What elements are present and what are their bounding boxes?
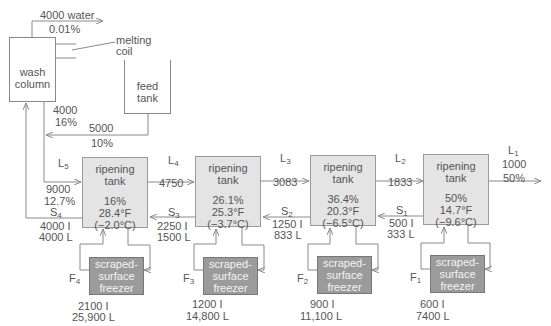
wash-column: wash column (9, 37, 56, 102)
tank-temp-f: 25.3°F (212, 206, 245, 218)
stream-S2-liquid: 833 L (274, 229, 302, 241)
tank-concentration: 26.1% (212, 194, 243, 206)
scraped-surface-freezer-2: scraped- surface freezer (317, 256, 372, 294)
freezer-label: scraped- (436, 256, 479, 268)
tank-concentration: 36.4% (327, 193, 358, 205)
stream-L1-conc: 50% (503, 172, 525, 184)
feed-tank-label-2: tank (137, 92, 158, 104)
wash-column-label-1: wash (20, 66, 46, 78)
tank-temp-f: 28.4°F (99, 207, 132, 219)
freezer-F2-liquid: 11,100 L (300, 310, 342, 322)
tank-temp-f: 14.7°F (440, 204, 473, 216)
freezer-F2-ice: 900 I (310, 298, 334, 310)
tank-name: tank (105, 175, 126, 187)
scraped-surface-freezer-4: scraped- surface freezer (89, 257, 144, 295)
wash-outflow: 4000 (53, 104, 77, 116)
stream-S1-liquid: 333 L (387, 228, 415, 240)
wash-outflow-conc: 16% (55, 116, 77, 128)
freezer-F2-label: F2 (297, 272, 308, 288)
stream-L3-value: 3083 (273, 176, 297, 188)
freezer-F4-label: F4 (69, 272, 80, 288)
ripening-tank-2: ripening tank 26.1% 25.3°F (−3.7°C) (195, 156, 261, 227)
freezer-label: scraped- (95, 258, 138, 270)
tank-temp-c: (−9.6°C) (435, 216, 476, 228)
freezer-F1-liquid: 7400 L (416, 310, 450, 322)
freezer-label: surface (98, 270, 134, 282)
feed-tank-label-1: feed (137, 80, 158, 92)
tank-name: tank (333, 173, 354, 185)
feed-flow: 5000 (89, 122, 113, 134)
freezer-label: scraped- (209, 258, 252, 270)
freezer-label: freezer (440, 280, 474, 292)
freezer-label: surface (326, 269, 362, 281)
freezer-label: freezer (213, 282, 247, 294)
stream-L4-label: L4 (168, 154, 179, 170)
tank-name: ripening (208, 162, 247, 174)
stream-L5-value: 9000 (46, 183, 70, 195)
melting-coil-label-2: coil (116, 45, 133, 57)
freezer-F1-label: F1 (410, 271, 421, 287)
stream-L2-value: 1833 (388, 176, 412, 188)
stream-L2-label: L2 (395, 152, 406, 168)
freezer-label: freezer (327, 281, 361, 293)
tank-name: ripening (323, 161, 362, 173)
wash-column-label-2: column (15, 78, 50, 90)
water-out-conc: 0.01% (49, 23, 80, 35)
ripening-tank-1: ripening tank 16% 28.4°F (−2.0°C) (82, 157, 148, 228)
stream-L3-label: L3 (280, 152, 291, 168)
freezer-label: scraped- (323, 257, 366, 269)
stream-S3-liquid: 1500 L (157, 231, 191, 243)
stream-L1-value: 1000 (502, 158, 526, 170)
stream-S4-liquid: 4000 L (39, 231, 73, 243)
stream-L5-label: L5 (58, 157, 69, 173)
feed-tank: feed tank (124, 60, 171, 114)
tank-concentration: 50% (445, 192, 467, 204)
scraped-surface-freezer-1: scraped- surface freezer (430, 255, 485, 293)
ripening-tank-3: ripening tank 36.4% 20.3°F (−6.5°C) (310, 155, 376, 226)
stream-L4-value: 4750 (159, 177, 183, 189)
ripening-tank-4: ripening tank 50% 14.7°F (−9.6°C) (423, 154, 489, 225)
freezer-F1-ice: 600 I (420, 298, 444, 310)
feed-conc: 10% (91, 137, 113, 149)
tank-name: tank (218, 174, 239, 186)
tank-temp-c: (−3.7°C) (207, 218, 248, 230)
tank-name: tank (446, 172, 467, 184)
freezer-F4-liquid: 25,900 L (72, 311, 115, 323)
tank-temp-f: 20.3°F (327, 205, 360, 217)
freezer-F3-label: F3 (183, 272, 194, 288)
freezer-label: surface (439, 268, 475, 280)
tank-concentration: 16% (104, 195, 126, 207)
tank-temp-c: (−6.5°C) (322, 217, 363, 229)
freezer-label: freezer (99, 282, 133, 294)
water-out-label: 4000 water (40, 9, 94, 21)
scraped-surface-freezer-3: scraped- surface freezer (203, 257, 258, 295)
freezer-label: surface (212, 270, 248, 282)
tank-temp-c: (−2.0°C) (94, 219, 135, 231)
tank-name: ripening (95, 163, 134, 175)
tank-name: ripening (436, 160, 475, 172)
freezer-F3-ice: 1200 I (192, 298, 223, 310)
freezer-F3-liquid: 14,800 L (186, 310, 229, 322)
